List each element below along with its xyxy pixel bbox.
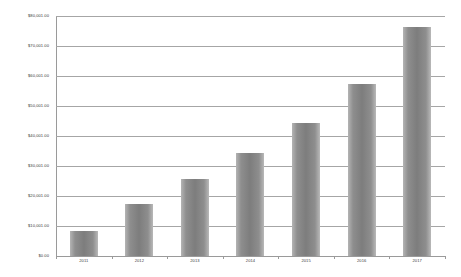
- y-axis-tick-label: $80,001.00: [28, 14, 49, 18]
- x-axis-tick: [445, 256, 446, 259]
- plot-area: [56, 16, 445, 256]
- y-axis-tick-label: $20,001.00: [28, 194, 49, 198]
- bar-2014[interactable]: [236, 153, 264, 256]
- bar-slot: [389, 16, 445, 256]
- x-axis-tick: [112, 256, 113, 259]
- bar-2012[interactable]: [125, 204, 153, 256]
- bar-slot: [223, 16, 279, 256]
- y-axis-tick-label: $40,001.00: [28, 134, 49, 138]
- x-axis-tick: [167, 256, 168, 259]
- bar-slot: [56, 16, 112, 256]
- x-axis-tick-label: 2011: [79, 259, 88, 263]
- bar-2015[interactable]: [292, 123, 320, 256]
- x-axis-tick-label: 2012: [135, 259, 144, 263]
- y-axis-tick-label: $0.00: [39, 254, 50, 258]
- x-axis-tick-label: 2015: [301, 259, 310, 263]
- bar-2017[interactable]: [403, 27, 431, 256]
- x-axis-tick-label: 2013: [190, 259, 199, 263]
- bar-slot: [334, 16, 390, 256]
- y-axis-tick-label: $30,001.00: [28, 164, 49, 168]
- bar-slot: [278, 16, 334, 256]
- bar-slot: [167, 16, 223, 256]
- x-axis-tick-label: 2016: [357, 259, 366, 263]
- y-axis: $0.00$10,001.00$20,001.00$30,001.00$40,0…: [0, 0, 53, 277]
- bar-2013[interactable]: [181, 179, 209, 256]
- x-axis-tick: [223, 256, 224, 259]
- y-axis-tick-label: $70,001.00: [28, 44, 49, 48]
- bar-chart: $0.00$10,001.00$20,001.00$30,001.00$40,0…: [0, 0, 461, 277]
- x-axis-tick-label: 2017: [413, 259, 422, 263]
- axis-baseline: [56, 256, 445, 257]
- bar-2011[interactable]: [70, 231, 98, 256]
- x-axis: 2011201220132014201520162017: [56, 259, 445, 273]
- bar-2016[interactable]: [348, 84, 376, 256]
- x-axis-tick: [389, 256, 390, 259]
- x-axis-tick: [334, 256, 335, 259]
- bar-slot: [112, 16, 168, 256]
- x-axis-tick: [278, 256, 279, 259]
- y-axis-tick-label: $10,001.00: [28, 224, 49, 228]
- y-axis-tick-label: $50,001.00: [28, 104, 49, 108]
- x-axis-tick: [56, 256, 57, 259]
- y-axis-tick-label: $60,001.00: [28, 74, 49, 78]
- x-axis-tick-label: 2014: [246, 259, 255, 263]
